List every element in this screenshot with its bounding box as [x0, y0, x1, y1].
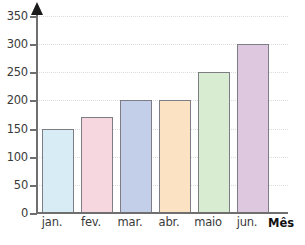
y-tick-label: 150: [0, 124, 28, 136]
bar-mar[interactable]: [120, 100, 152, 213]
y-tick: [30, 72, 37, 74]
gridline: [36, 16, 288, 17]
bar-abr[interactable]: [159, 100, 191, 213]
x-axis-title: Mês: [268, 218, 294, 230]
arrow-up-icon: [31, 2, 43, 15]
y-tick-label: 100: [0, 152, 28, 164]
y-tick: [30, 100, 37, 102]
y-tick-label: 300: [0, 39, 28, 51]
y-tick: [30, 157, 37, 159]
y-tick-label: 50: [0, 180, 28, 192]
bar-jan[interactable]: [42, 129, 74, 213]
bar-jun[interactable]: [237, 44, 269, 213]
x-tick-label-jun: jun.: [221, 217, 273, 229]
bar-chart: 350 300 250 200 150 100 50 0 jan. fev. m…: [0, 0, 305, 245]
y-tick-label: 250: [0, 67, 28, 79]
bar-maio[interactable]: [198, 72, 230, 213]
bar-fev[interactable]: [81, 117, 113, 213]
y-tick: [30, 213, 37, 215]
plot-area: [36, 8, 288, 213]
y-tick: [30, 44, 37, 46]
y-tick-label: 0: [0, 208, 28, 220]
y-tick: [30, 16, 37, 18]
y-tick: [30, 185, 37, 187]
y-tick: [30, 129, 37, 131]
x-axis-line: [36, 212, 288, 214]
y-tick-label: 350: [0, 11, 28, 23]
y-tick-label: 200: [0, 95, 28, 107]
